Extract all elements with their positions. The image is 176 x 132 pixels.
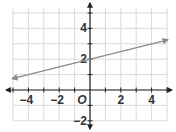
y-tick-label: 2: [80, 52, 87, 66]
coordinate-plane: −4−224−224O: [0, 0, 176, 132]
x-tick-label: 2: [117, 93, 124, 107]
axes: [6, 3, 172, 129]
y-tick-label: 4: [80, 21, 87, 35]
origin-label: O: [77, 93, 87, 107]
x-tick-label: 4: [148, 93, 155, 107]
x-tick-label: −4: [20, 93, 34, 107]
y-tick-label: −2: [73, 114, 87, 128]
x-tick-label: −2: [50, 93, 64, 107]
